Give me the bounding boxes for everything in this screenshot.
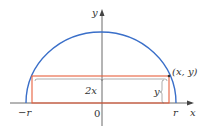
width-bracket	[35, 79, 167, 81]
point-marker	[168, 75, 171, 78]
inscribed-rectangle	[32, 76, 169, 103]
neg-r-label: −r	[18, 107, 32, 118]
pos-r-label: r	[173, 107, 179, 118]
x-axis-label: x	[190, 107, 196, 118]
semicircle-rectangle-diagram: y x 0 −r r (x, y) 2x y	[0, 0, 206, 133]
y-axis-arrow-icon	[100, 9, 105, 16]
height-label: y	[153, 86, 160, 97]
point-label: (x, y)	[172, 66, 198, 77]
width-label: 2x	[84, 85, 97, 96]
y-axis-label: y	[91, 7, 98, 18]
x-axis-arrow-icon	[187, 101, 194, 106]
height-bracket	[160, 80, 164, 103]
origin-label: 0	[94, 108, 100, 119]
